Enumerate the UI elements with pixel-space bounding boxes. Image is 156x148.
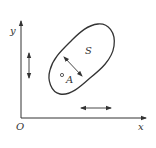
origin-label: O (16, 121, 24, 132)
x-axis-label: x (138, 121, 144, 132)
region-s-boundary (49, 24, 114, 94)
diagram: O x y S A (0, 0, 156, 148)
point-label: A (65, 74, 73, 85)
y-axis-label: y (9, 25, 16, 36)
region-label: S (85, 45, 92, 56)
point-a-marker (60, 73, 63, 76)
